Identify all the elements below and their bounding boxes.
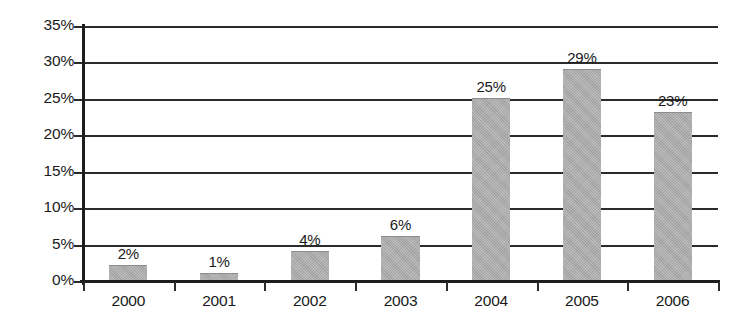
x-axis-tick-label: 2005 [537, 292, 628, 310]
gridline [83, 172, 718, 174]
x-axis-tick-label: 2002 [264, 292, 355, 310]
bar-value-label: 29% [537, 49, 628, 66]
bar-value-label: 1% [174, 253, 265, 270]
x-axis-tick-label: 2000 [83, 292, 174, 310]
y-axis-tick-label: 25% [44, 89, 74, 107]
y-axis-tick-label: 15% [44, 162, 74, 180]
bar-chart: 0%5%10%15%20%25%30%35% 2%1%4%6%25%29%23%… [0, 0, 752, 326]
y-axis-tick-label: 35% [44, 16, 74, 34]
x-axis-tick-label: 2004 [446, 292, 537, 310]
x-axis-tick [718, 282, 720, 291]
bar [472, 98, 510, 281]
y-axis-tick-label: 20% [44, 125, 74, 143]
x-axis-tick [264, 282, 266, 291]
bar [563, 69, 601, 281]
x-axis-tick-label: 2001 [174, 292, 265, 310]
gridline [83, 208, 718, 210]
y-axis-labels: 0%5%10%15%20%25%30%35% [0, 0, 74, 326]
x-axis-tick [174, 282, 176, 291]
gridline [83, 26, 718, 28]
x-axis-tick-label: 2006 [627, 292, 718, 310]
y-axis-tick-label: 30% [44, 52, 74, 70]
x-axis-tick [537, 282, 539, 291]
bar-value-label: 25% [446, 78, 537, 95]
bar-value-label: 4% [264, 231, 355, 248]
bar [381, 236, 419, 281]
x-axis-tick [83, 282, 85, 291]
bar [109, 265, 147, 281]
x-axis-line [80, 280, 720, 283]
x-axis-tick [627, 282, 629, 291]
x-axis-tick [446, 282, 448, 291]
y-axis-tick-label: 10% [44, 198, 74, 216]
gridline [83, 99, 718, 101]
x-axis-tick [355, 282, 357, 291]
x-axis-tick-label: 2003 [355, 292, 446, 310]
bar-value-label: 6% [355, 216, 446, 233]
bar-value-label: 2% [83, 245, 174, 262]
y-axis-line [82, 24, 85, 285]
plot-area: 2%1%4%6%25%29%23% [83, 26, 718, 281]
y-axis-tick-label: 0% [52, 271, 74, 289]
gridline [83, 135, 718, 137]
bar [654, 112, 692, 281]
bar [291, 251, 329, 281]
y-axis-tick-label: 5% [52, 235, 74, 253]
bar-value-label: 23% [627, 92, 718, 109]
